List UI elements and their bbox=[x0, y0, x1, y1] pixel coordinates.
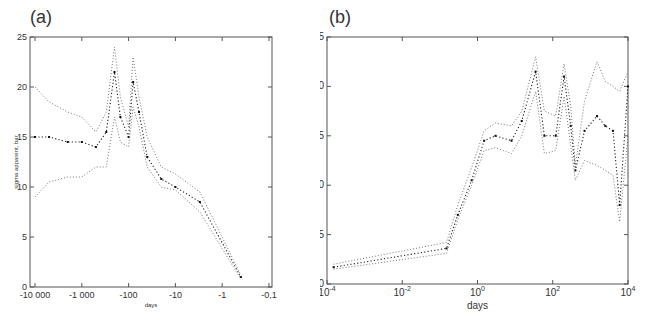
x-tick-label: 100 bbox=[470, 285, 485, 298]
data-point bbox=[105, 131, 107, 133]
chart-b-plot: 051015202510-410-2100102104dayssigma app… bbox=[320, 0, 646, 325]
data-point bbox=[612, 130, 614, 132]
data-point bbox=[146, 156, 148, 158]
data-point bbox=[543, 135, 545, 137]
y-tick-label: 20 bbox=[17, 82, 27, 92]
data-point bbox=[199, 201, 201, 203]
x-tick-label: -1 000 bbox=[69, 290, 95, 300]
series-estimate bbox=[35, 72, 241, 277]
x-tick-label: -10 000 bbox=[20, 290, 51, 300]
data-point bbox=[67, 141, 69, 143]
y-axis-label: sigma apparent, bar bbox=[13, 135, 19, 188]
data-point bbox=[563, 76, 565, 78]
x-axis-label: days bbox=[467, 300, 488, 311]
data-point bbox=[48, 136, 50, 138]
series-lower-bound bbox=[35, 107, 241, 279]
data-point bbox=[95, 146, 97, 148]
data-point bbox=[160, 178, 162, 180]
x-tick-label: 10-4 bbox=[320, 285, 336, 298]
data-point bbox=[510, 140, 512, 142]
data-point bbox=[604, 125, 606, 127]
y-tick-label: 25 bbox=[17, 32, 27, 42]
data-point bbox=[446, 247, 448, 249]
data-point bbox=[138, 111, 140, 113]
data-point bbox=[584, 130, 586, 132]
x-tick-label: -100 bbox=[120, 290, 138, 300]
y-tick-label: 5 bbox=[320, 229, 324, 240]
data-point bbox=[471, 179, 473, 181]
data-point bbox=[333, 266, 335, 268]
x-tick-label: -0,1 bbox=[261, 290, 277, 300]
data-point bbox=[619, 204, 621, 206]
chart-panel-b: (b) 051015202510-410-2100102104dayssigma… bbox=[320, 0, 646, 325]
data-point bbox=[483, 140, 485, 142]
x-tick-label: 104 bbox=[620, 285, 635, 298]
x-tick-label: -1 bbox=[218, 290, 226, 300]
y-tick-label: 15 bbox=[320, 130, 324, 141]
data-point bbox=[535, 71, 537, 73]
x-axis-label: days bbox=[145, 302, 158, 308]
x-tick-label: 102 bbox=[545, 285, 560, 298]
series-estimate bbox=[334, 72, 628, 268]
data-point bbox=[119, 116, 121, 118]
data-point bbox=[574, 169, 576, 171]
data-point bbox=[81, 141, 83, 143]
data-point bbox=[114, 71, 116, 73]
data-point bbox=[174, 186, 176, 188]
chart-a-plot: 0510152025-10 000-1 000-100-10-1-0,1days… bbox=[0, 0, 320, 325]
x-tick-label: 10-2 bbox=[394, 285, 411, 298]
data-point bbox=[132, 81, 134, 83]
series-lower-bound bbox=[334, 91, 628, 269]
data-point bbox=[555, 135, 557, 137]
data-point bbox=[34, 136, 36, 138]
plot-frame bbox=[30, 37, 272, 287]
y-tick-label: 20 bbox=[320, 80, 324, 91]
series-upper-bound bbox=[35, 47, 241, 275]
chart-panel-a: (a) 0510152025-10 000-1 000-100-10-1-0,1… bbox=[0, 0, 320, 325]
y-tick-label: 5 bbox=[22, 232, 27, 242]
data-point bbox=[494, 135, 496, 137]
y-tick-label: 10 bbox=[320, 179, 324, 190]
x-tick-label: -10 bbox=[169, 290, 182, 300]
data-point bbox=[627, 85, 629, 87]
data-point bbox=[596, 115, 598, 117]
data-point bbox=[521, 120, 523, 122]
y-tick-label: 25 bbox=[320, 31, 324, 42]
data-point bbox=[570, 125, 572, 127]
data-point bbox=[457, 214, 459, 216]
